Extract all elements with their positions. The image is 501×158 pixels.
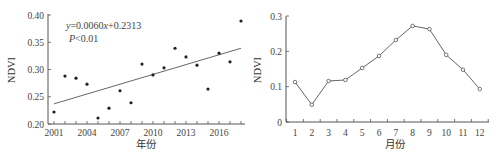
data-marker [344,78,348,82]
data-marker [444,53,448,57]
p-value-annotation: P<0.01 [68,33,98,44]
x-tick-label: 2 [309,128,314,138]
data-marker [327,79,331,83]
data-marker [461,68,465,72]
data-marker [377,54,381,58]
left-y-axis: 0.200.250.300.350.40 [27,11,51,130]
x-tick-label: 11 [458,128,467,138]
right-y-axis: 00.10.20.3 [270,12,289,128]
x-tick-label: 2016 [210,128,229,138]
y-tick-label: 0.40 [27,11,44,21]
data-point [206,88,209,91]
x-tick-label: 4 [343,128,348,138]
x-tick-label: 10 [441,128,451,138]
monthly-ndvi-line [295,26,480,105]
data-point [107,107,110,110]
x-tick-label: 2010 [144,128,163,138]
data-point [74,77,77,80]
data-point [195,64,198,67]
x-tick-label: 6 [377,128,382,138]
data-point [162,66,165,69]
regression-equation: y=0.0060x+0.2313 [65,20,141,31]
data-marker [310,103,314,107]
left-x-axis: 200120042007201020132016 [45,121,246,138]
data-point [228,60,231,63]
x-tick-label: 2013 [177,128,196,138]
y-tick-label: 0.3 [270,12,282,22]
x-tick-label: 2004 [78,128,97,138]
x-tick-label: 7 [393,128,398,138]
data-marker [394,38,398,42]
x-tick-label: 2007 [111,128,130,138]
data-point [184,55,187,58]
data-point [96,116,99,119]
data-point [173,47,176,50]
x-tick-label: 3 [326,128,331,138]
data-point [85,83,88,86]
y-tick-label: 0.25 [27,92,44,102]
data-marker [428,27,432,31]
data-point [239,19,242,22]
data-marker [411,24,415,28]
data-marker [360,66,364,70]
data-point [63,74,66,77]
y-tick-label: 0 [277,118,282,128]
y-tick-label: 0.35 [27,38,44,48]
figure: 0.200.250.300.350.40 2001200420072010201… [0,0,501,158]
data-marker [293,80,297,84]
y-tick-label: 0.2 [270,47,282,57]
data-point [129,101,132,104]
left-x-axis-title: 年份 [136,138,157,150]
data-point [140,62,143,65]
x-tick-label: 9 [427,128,432,138]
regression-line [54,48,241,104]
line-markers [293,24,481,106]
x-tick-label: 5 [360,128,365,138]
y-tick-label: 0.30 [27,65,44,75]
x-tick-label: 1 [293,128,298,138]
data-point [118,89,121,92]
right-x-axis-title: 月份 [385,139,406,150]
y-tick-label: 0.1 [270,82,282,92]
data-point [151,73,154,76]
data-point [52,110,55,113]
x-tick-label: 8 [410,128,415,138]
data-point [217,52,220,55]
y-tick-label: 0.20 [27,120,44,130]
x-tick-label: 12 [475,128,485,138]
annual-ndvi-scatter-chart: 0.200.250.300.350.40 2001200420072010201… [6,11,245,151]
x-tick-label: 2001 [45,128,64,138]
monthly-ndvi-line-chart: 00.10.20.3 123456789101112 NDVI 月份 [252,12,489,151]
left-y-axis-title: NDVI [6,56,17,83]
data-marker [478,87,482,91]
right-x-axis: 123456789101112 [286,119,489,138]
right-y-axis-title: NDVI [252,56,263,83]
